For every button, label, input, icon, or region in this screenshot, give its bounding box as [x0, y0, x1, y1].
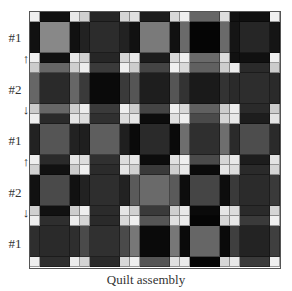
- quilt-cell: [190, 206, 220, 216]
- quilt-cell: [130, 165, 140, 175]
- quilt-cell: [220, 226, 230, 257]
- quilt-cell: [170, 155, 180, 165]
- quilt-cell: [180, 73, 190, 104]
- quilt-cell: [90, 12, 120, 22]
- quilt-cell: [80, 226, 90, 257]
- quilt-cell: [180, 216, 190, 226]
- quilt-cell: [170, 104, 180, 114]
- quilt-cell: [80, 63, 90, 73]
- block-row-label: #2: [4, 185, 26, 201]
- quilt-cell: [120, 53, 130, 63]
- quilt-cell: [140, 12, 170, 22]
- quilt-cell: [130, 12, 140, 22]
- quilt-cell: [180, 226, 190, 257]
- quilt-cell: [190, 257, 220, 267]
- quilt-cell: [70, 124, 80, 155]
- quilt-cell: [230, 73, 240, 104]
- quilt-cell: [140, 114, 170, 124]
- quilt-cell: [230, 165, 240, 175]
- quilt-cell: [220, 155, 230, 165]
- arrow-up-icon: ↑: [21, 52, 31, 65]
- quilt-cell: [120, 73, 130, 104]
- quilt-cell: [190, 22, 220, 53]
- quilt-cell: [270, 114, 280, 124]
- quilt-cell: [180, 12, 190, 22]
- arrow-up-icon: ↑: [21, 155, 31, 168]
- quilt-cell: [230, 53, 240, 63]
- quilt-cell: [170, 206, 180, 216]
- quilt-cell: [120, 165, 130, 175]
- quilt-cell: [70, 53, 80, 63]
- quilt-cell: [90, 104, 120, 114]
- quilt-cell: [90, 216, 120, 226]
- quilt-cell: [220, 216, 230, 226]
- quilt-cell: [90, 226, 120, 257]
- quilt-cell: [30, 63, 40, 73]
- quilt-cell: [90, 155, 120, 165]
- quilt-cell: [270, 124, 280, 155]
- quilt-cell: [190, 216, 220, 226]
- quilt-cell: [140, 206, 170, 216]
- quilt-cell: [240, 155, 270, 165]
- quilt-cell: [90, 53, 120, 63]
- quilt-cell: [140, 155, 170, 165]
- quilt-cell: [230, 226, 240, 257]
- quilt-cell: [90, 63, 120, 73]
- quilt-cell: [190, 63, 220, 73]
- quilt-cell: [130, 63, 140, 73]
- quilt-cell: [90, 114, 120, 124]
- quilt-cell: [120, 104, 130, 114]
- quilt-cell: [80, 53, 90, 63]
- quilt-cell: [190, 226, 220, 257]
- block-row-label: #1: [4, 30, 26, 46]
- quilt-cell: [70, 216, 80, 226]
- quilt-cell: [80, 12, 90, 22]
- quilt-cell: [30, 165, 40, 175]
- quilt-cell: [140, 226, 170, 257]
- quilt-cell: [270, 73, 280, 104]
- block-row-label: #1: [4, 133, 26, 149]
- quilt-cell: [220, 206, 230, 216]
- quilt-cell: [230, 124, 240, 155]
- quilt-cell: [40, 104, 70, 114]
- quilt-cell: [120, 175, 130, 206]
- quilt-cell: [240, 175, 270, 206]
- quilt-cell: [270, 216, 280, 226]
- quilt-cell: [40, 53, 70, 63]
- quilt-cell: [170, 63, 180, 73]
- quilt-cell: [130, 53, 140, 63]
- quilt-cell: [270, 155, 280, 165]
- quilt-cell: [30, 124, 40, 155]
- quilt-cell: [230, 216, 240, 226]
- quilt-cell: [70, 226, 80, 257]
- quilt-cell: [80, 257, 90, 267]
- quilt-cell: [240, 104, 270, 114]
- quilt-grid: [30, 12, 280, 268]
- quilt-cell: [240, 73, 270, 104]
- quilt-cell: [220, 104, 230, 114]
- quilt-cell: [30, 226, 40, 257]
- quilt-cell: [170, 165, 180, 175]
- quilt-cell: [80, 114, 90, 124]
- quilt-cell: [130, 175, 140, 206]
- quilt-cell: [170, 175, 180, 206]
- quilt-cell: [80, 175, 90, 206]
- quilt-cell: [180, 124, 190, 155]
- quilt-cell: [170, 114, 180, 124]
- quilt-cell: [90, 22, 120, 53]
- quilt-cell: [230, 104, 240, 114]
- quilt-cell: [70, 114, 80, 124]
- quilt-cell: [130, 226, 140, 257]
- quilt-cell: [70, 104, 80, 114]
- quilt-cell: [140, 257, 170, 267]
- quilt-cell: [180, 104, 190, 114]
- quilt-cell: [140, 124, 170, 155]
- quilt-cell: [40, 124, 70, 155]
- quilt-cell: [30, 53, 40, 63]
- quilt-cell: [70, 165, 80, 175]
- quilt-cell: [270, 53, 280, 63]
- quilt-cell: [120, 257, 130, 267]
- quilt-cell: [270, 175, 280, 206]
- quilt-cell: [120, 63, 130, 73]
- quilt-cell: [180, 175, 190, 206]
